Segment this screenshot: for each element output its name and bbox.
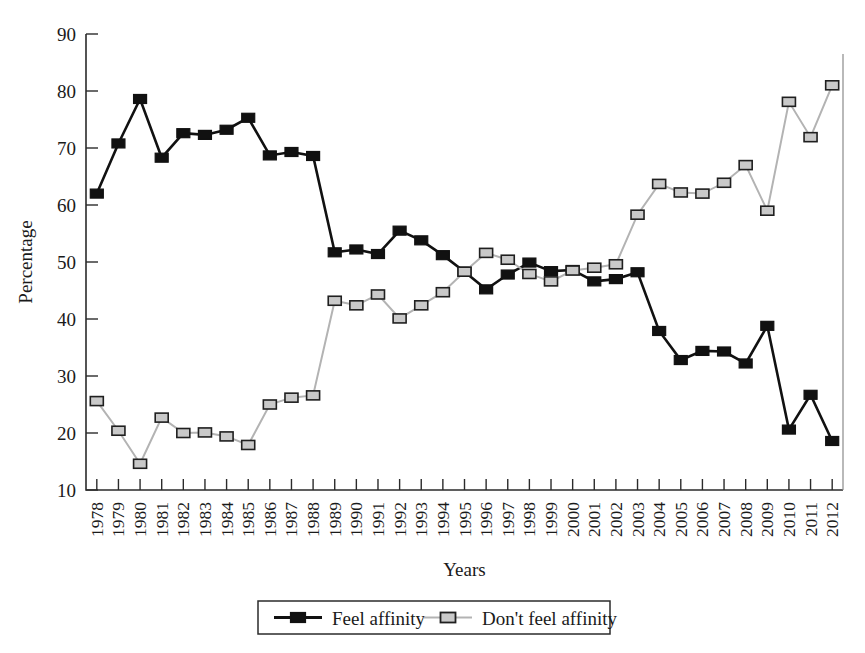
- data-series-group: [90, 81, 838, 468]
- data-point-marker: [804, 133, 817, 142]
- data-point-marker: [653, 179, 666, 188]
- x-tick-label: 2003: [628, 502, 648, 537]
- data-point-marker: [674, 188, 687, 197]
- data-point-marker: [177, 429, 190, 438]
- data-point-marker: [739, 359, 752, 368]
- data-point-marker: [653, 326, 666, 335]
- data-point-marker: [415, 301, 428, 310]
- data-point-marker: [307, 391, 320, 400]
- x-tick-label: 1979: [108, 502, 128, 537]
- chart-legend: Feel affinityDon't feel affinity: [258, 601, 617, 634]
- chart-figure: 102030405060708090 197819791980198119821…: [0, 0, 865, 653]
- legend-label: Feel affinity: [332, 608, 426, 629]
- x-tick-label: 2008: [736, 502, 756, 537]
- data-point-marker: [696, 189, 709, 198]
- data-point-marker: [480, 285, 493, 294]
- data-point-marker: [696, 346, 709, 355]
- x-tick-label: 1986: [260, 502, 280, 537]
- data-point-marker: [523, 269, 536, 278]
- x-tick-label: 1993: [411, 502, 431, 537]
- x-tick-label: 2001: [584, 502, 604, 537]
- x-tick-label: 1982: [173, 502, 193, 537]
- x-tick-label: 1985: [238, 502, 258, 537]
- x-tick-label: 1980: [130, 502, 150, 537]
- legend-marker-swatch: [441, 613, 456, 623]
- data-point-marker: [761, 321, 774, 330]
- x-tick-label: 1988: [303, 502, 323, 537]
- axes-group: [86, 34, 843, 490]
- data-point-marker: [177, 129, 190, 138]
- data-point-marker: [631, 210, 644, 219]
- y-tick-label: 30: [57, 366, 76, 387]
- data-point-marker: [501, 270, 514, 279]
- x-tick-label: 1991: [368, 502, 388, 537]
- data-point-marker: [285, 147, 298, 156]
- y-tick-label: 50: [57, 252, 76, 273]
- data-point-marker: [112, 426, 125, 435]
- data-point-marker: [242, 440, 255, 449]
- data-point-marker: [263, 400, 276, 409]
- affinity-line-chart: 102030405060708090 197819791980198119821…: [0, 0, 865, 653]
- x-tick-label: 1996: [476, 502, 496, 537]
- data-point-marker: [826, 81, 839, 90]
- data-point-marker: [263, 151, 276, 160]
- data-point-marker: [566, 266, 579, 275]
- data-point-marker: [718, 178, 731, 187]
- data-point-marker: [631, 268, 644, 277]
- x-tick-label: 2011: [801, 502, 821, 536]
- x-tick-label: 1995: [455, 502, 475, 537]
- x-tick-label: 1978: [87, 502, 107, 537]
- x-tick-label: 1987: [281, 502, 301, 537]
- data-point-marker: [242, 113, 255, 122]
- x-tick-label: 1999: [541, 502, 561, 537]
- data-point-marker: [155, 413, 168, 422]
- data-point-marker: [588, 277, 601, 286]
- x-tick-label: 1981: [152, 502, 172, 537]
- data-point-marker: [458, 267, 471, 276]
- x-tick-label: 1983: [195, 502, 215, 537]
- x-tick-label: 1998: [519, 502, 539, 537]
- data-point-marker: [609, 260, 622, 269]
- data-point-marker: [134, 459, 147, 468]
- data-point-marker: [393, 314, 406, 323]
- legend-label: Don't feel affinity: [482, 608, 617, 629]
- data-point-marker: [90, 189, 103, 198]
- data-point-marker: [328, 248, 341, 257]
- data-point-marker: [609, 275, 622, 284]
- data-point-marker: [155, 153, 168, 162]
- data-point-marker: [371, 290, 384, 299]
- data-point-marker: [718, 347, 731, 356]
- data-point-marker: [112, 139, 125, 148]
- data-point-marker: [350, 301, 363, 310]
- data-point-marker: [804, 390, 817, 399]
- data-point-marker: [545, 277, 558, 286]
- y-axis-ticks: 102030405060708090: [57, 24, 98, 501]
- x-tick-label: 2009: [757, 502, 777, 537]
- y-tick-label: 90: [57, 24, 76, 45]
- legend-marker-swatch: [291, 613, 306, 623]
- data-point-marker: [220, 125, 233, 134]
- x-tick-label: 1984: [217, 502, 237, 537]
- data-point-marker: [285, 393, 298, 402]
- x-tick-label: 1992: [390, 502, 410, 537]
- y-tick-label: 60: [57, 195, 76, 216]
- x-tick-label: 2002: [606, 502, 626, 537]
- data-point-marker: [545, 267, 558, 276]
- data-point-marker: [739, 161, 752, 170]
- x-axis-ticks: 1978197919801981198219831984198519861987…: [87, 479, 842, 537]
- data-point-marker: [761, 206, 774, 215]
- data-point-marker: [198, 130, 211, 139]
- data-point-marker: [350, 245, 363, 254]
- data-point-marker: [220, 432, 233, 441]
- x-tick-label: 1990: [346, 502, 366, 537]
- data-point-marker: [307, 151, 320, 160]
- data-point-marker: [393, 226, 406, 235]
- data-point-marker: [480, 248, 493, 257]
- data-point-marker: [198, 428, 211, 437]
- x-tick-label: 2005: [671, 502, 691, 537]
- y-tick-label: 70: [57, 138, 76, 159]
- data-point-marker: [826, 436, 839, 445]
- data-point-marker: [588, 263, 601, 272]
- plot-axes: [86, 34, 843, 490]
- y-tick-label: 10: [57, 480, 76, 501]
